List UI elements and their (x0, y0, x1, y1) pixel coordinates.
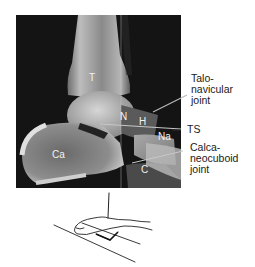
positioning-sketch (0, 0, 255, 267)
